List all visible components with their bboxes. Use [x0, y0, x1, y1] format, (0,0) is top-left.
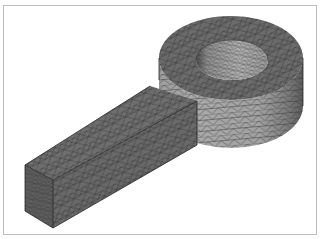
mesh-render: [0, 0, 323, 239]
ring-hole: [196, 40, 268, 80]
